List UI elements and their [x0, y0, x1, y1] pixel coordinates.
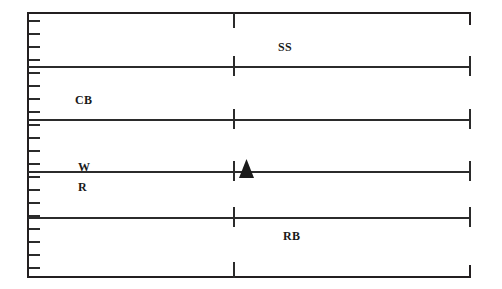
frame-right-bracket-top — [469, 12, 471, 25]
ruler-tick-8 — [29, 111, 40, 113]
ruler-tick-19 — [29, 254, 40, 256]
ruler-tick-20 — [29, 267, 40, 269]
ruler-tick-17 — [29, 228, 40, 230]
ruler-tick-7 — [29, 98, 40, 100]
right-tick-4 — [469, 207, 471, 227]
right-tick-3 — [469, 161, 471, 181]
frame-left-border — [27, 12, 29, 278]
right-tick-2 — [469, 109, 471, 129]
label-ss: SS — [278, 40, 292, 55]
center-tick-6 — [233, 262, 235, 278]
ruler-tick-9 — [29, 124, 40, 126]
frame-bottom-border — [27, 276, 471, 278]
ruler-tick-14 — [29, 189, 40, 191]
label-rb: RB — [283, 229, 300, 244]
core-log-figure: SSCBWRRB — [0, 0, 502, 289]
ruler-tick-4 — [29, 59, 40, 61]
label-w: W — [78, 160, 90, 175]
ruler-tick-18 — [29, 241, 40, 243]
center-tick-3 — [233, 109, 235, 129]
division-line-1 — [28, 66, 470, 68]
division-line-4 — [28, 217, 470, 219]
center-tick-4 — [233, 161, 235, 181]
ruler-tick-13 — [29, 176, 40, 178]
ruler-tick-3 — [29, 46, 40, 48]
ruler-tick-2 — [29, 33, 40, 35]
ruler-tick-5 — [29, 72, 40, 74]
ruler-tick-12 — [29, 163, 40, 165]
right-tick-1 — [469, 56, 471, 76]
ruler-tick-16 — [29, 215, 40, 217]
ruler-tick-6 — [29, 85, 40, 87]
ruler-tick-15 — [29, 202, 40, 204]
ruler-tick-11 — [29, 150, 40, 152]
label-r: R — [78, 180, 87, 195]
center-tick-1 — [233, 12, 235, 28]
label-cb: CB — [75, 93, 92, 108]
division-line-2 — [28, 119, 470, 121]
frame-top-border — [27, 12, 471, 14]
ruler-tick-1 — [29, 20, 40, 22]
center-tick-2 — [233, 56, 235, 76]
ruler-tick-10 — [29, 137, 40, 139]
center-tick-5 — [233, 207, 235, 227]
frame-right-bracket-bottom — [469, 265, 471, 278]
